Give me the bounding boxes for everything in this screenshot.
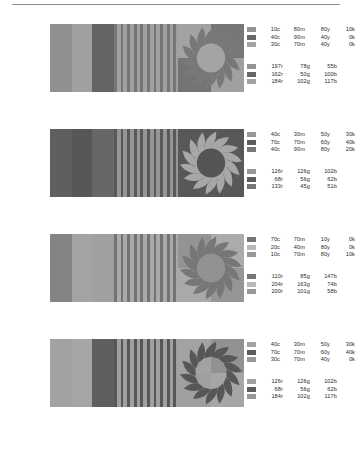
stripe-pattern (114, 339, 180, 407)
row-1: 10c80m80y10k40c90m40y0k30c70m40y0k197r78… (0, 24, 353, 129)
halftone-texture (247, 79, 256, 84)
legend-row: 197r78g55b (247, 63, 337, 71)
yellow-value: 50y (310, 341, 330, 349)
legend-swatch (247, 342, 256, 347)
green-value: 50g (287, 71, 310, 79)
panel-color-blocks (50, 234, 116, 302)
color-block (72, 339, 92, 407)
blue-value: 100b (314, 71, 337, 79)
legend-swatch (247, 169, 256, 174)
halftone-texture (247, 35, 256, 40)
legend-row: 40c30m50y30k (247, 131, 355, 139)
legend-swatch (247, 42, 256, 47)
black-value: 10k (335, 26, 355, 34)
color-block-group (50, 234, 116, 302)
green-value: 102g (287, 393, 310, 401)
legend-rgb: 110r85g147b204r163g74b200r101g58b (247, 273, 337, 296)
red-value: 126r (260, 378, 283, 386)
halftone-texture (247, 42, 256, 47)
magenta-value: 90m (285, 146, 305, 154)
stripe-pattern (114, 24, 180, 92)
halftone-texture (247, 342, 256, 347)
cyan-value: 10c (260, 26, 280, 34)
legend-swatch (247, 274, 256, 279)
legend-row: 68r56g62b (247, 176, 337, 184)
halftone-texture (247, 357, 256, 362)
yellow-value: 40y (310, 34, 330, 42)
blue-value: 58b (314, 288, 337, 296)
cyan-value: 20c (260, 244, 280, 252)
legend-rgb: 126r126g102b68r56g62b133r45g51b (247, 168, 337, 191)
red-value: 162r (260, 71, 283, 79)
blue-value: 102b (314, 168, 337, 176)
cyan-value: 30c (260, 356, 280, 364)
color-block (72, 129, 92, 197)
magenta-value: 70m (285, 349, 305, 357)
red-value: 184r (260, 78, 283, 86)
halftone-texture (247, 169, 256, 174)
color-block (72, 234, 92, 302)
legend-cmyk: 70c70m10y0k20c40m80y0k10c70m80y10k (247, 236, 355, 259)
color-block (72, 24, 92, 92)
legend-row: 204r163g74b (247, 281, 337, 289)
legend-cmyk: 40c30m50y30k70c70m60y40k40c90m80y20k (247, 131, 355, 154)
red-value: 200r (260, 288, 283, 296)
blue-value: 74b (314, 281, 337, 289)
sun-scene (178, 129, 244, 197)
sun-scene (178, 24, 244, 92)
black-value: 0k (335, 236, 355, 244)
black-value: 0k (335, 34, 355, 42)
halftone-texture (247, 132, 256, 137)
halftone-texture (247, 177, 256, 182)
green-value: 163g (287, 281, 310, 289)
magenta-value: 40m (285, 244, 305, 252)
row-4: 40c30m50y30k70c70m60y40k30c70m40y0k126r1… (0, 339, 353, 444)
color-block (50, 24, 72, 92)
legend-row: 184r102g117b (247, 393, 337, 401)
panel-color-blocks (50, 339, 116, 407)
legend-row: 70c70m60y40k (247, 139, 355, 147)
halftone-texture (247, 245, 256, 250)
color-block-group (50, 129, 116, 197)
magenta-value: 30m (285, 341, 305, 349)
green-value: 126g (287, 168, 310, 176)
black-value: 20k (335, 146, 355, 154)
cyan-value: 40c (260, 146, 280, 154)
legend-swatch (247, 245, 256, 250)
legend-cmyk: 10c80m80y10k40c90m40y0k30c70m40y0k (247, 26, 355, 49)
legend-row: 10c70m80y10k (247, 251, 355, 259)
sun-ray (197, 342, 205, 362)
halftone-texture (247, 394, 256, 399)
row-3: 70c70m10y0k20c40m80y0k10c70m80y10k110r85… (0, 234, 353, 339)
cyan-value: 40c (260, 131, 280, 139)
legend-swatch (247, 147, 256, 152)
sun-icon (178, 234, 244, 302)
black-value: 0k (335, 41, 355, 49)
sun-disk (197, 253, 225, 282)
panel-sun-image (178, 339, 244, 407)
red-value: 133r (260, 183, 283, 191)
sun-scene (178, 234, 244, 302)
legend-swatch (247, 237, 256, 242)
magenta-value: 80m (285, 26, 305, 34)
yellow-value: 80y (310, 146, 330, 154)
halftone-texture (247, 147, 256, 152)
stripe-pattern (114, 129, 180, 197)
yellow-value: 60y (310, 139, 330, 147)
blue-value: 51b (314, 183, 337, 191)
black-value: 0k (335, 244, 355, 252)
cyan-value: 30c (260, 41, 280, 49)
panel-color-blocks (50, 129, 116, 197)
legend-row: 10c80m80y10k (247, 26, 355, 34)
color-block-group (50, 24, 116, 92)
sun-disk (197, 43, 225, 72)
green-value: 101g (287, 288, 310, 296)
yellow-value: 80y (310, 26, 330, 34)
halftone-texture (247, 274, 256, 279)
legend-row: 200r101g58b (247, 288, 337, 296)
legend-row: 30c70m40y0k (247, 356, 355, 364)
legend-row: 110r85g147b (247, 273, 337, 281)
legend-rgb: 126r126g102b68r56g62b184r102g117b (247, 378, 337, 401)
cyan-value: 10c (260, 251, 280, 259)
